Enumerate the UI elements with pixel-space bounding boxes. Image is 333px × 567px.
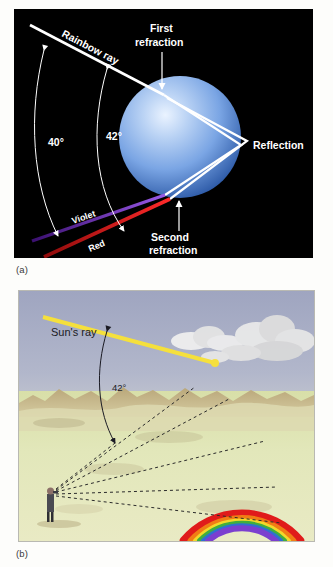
observer-shadow [37, 520, 81, 528]
reflection-label: Reflection [253, 139, 304, 151]
first-refraction-label-line2: refraction [135, 36, 183, 48]
observer-arm [53, 491, 58, 494]
water-droplet [119, 76, 241, 198]
panel-b-illustration: Sun's ray 42° [19, 291, 314, 541]
suns-ray-label: Sun's ray [51, 326, 97, 338]
suns-ray-endpoint [211, 359, 219, 367]
angle-label-40: 40° [48, 136, 64, 148]
angle-label-42-b: 42° [112, 382, 127, 393]
observer-leg-left [47, 512, 50, 522]
figure-panel-a: 40° 42° Rainbow ray First refraction Ref… [14, 9, 313, 258]
second-refraction-label-line1: Second [151, 231, 189, 243]
first-refraction-label-line1: First [150, 22, 173, 34]
ground-shadow-2 [135, 431, 203, 443]
ground-shadow-3 [84, 463, 144, 475]
ground-shadow-5 [55, 504, 103, 514]
panel-a-illustration: 40° 42° Rainbow ray First refraction Ref… [14, 9, 313, 258]
angle-label-42: 42° [106, 130, 122, 142]
observer-head [47, 488, 54, 495]
observer-leg-right [51, 512, 54, 522]
caption-a: (a) [16, 264, 28, 275]
second-refraction-label-line2: refraction [149, 244, 197, 256]
observer-body [47, 494, 54, 512]
caption-b: (b) [16, 548, 28, 559]
ground-shadow-1 [33, 418, 85, 428]
figure-panel-b: Sun's ray 42° [18, 290, 315, 542]
